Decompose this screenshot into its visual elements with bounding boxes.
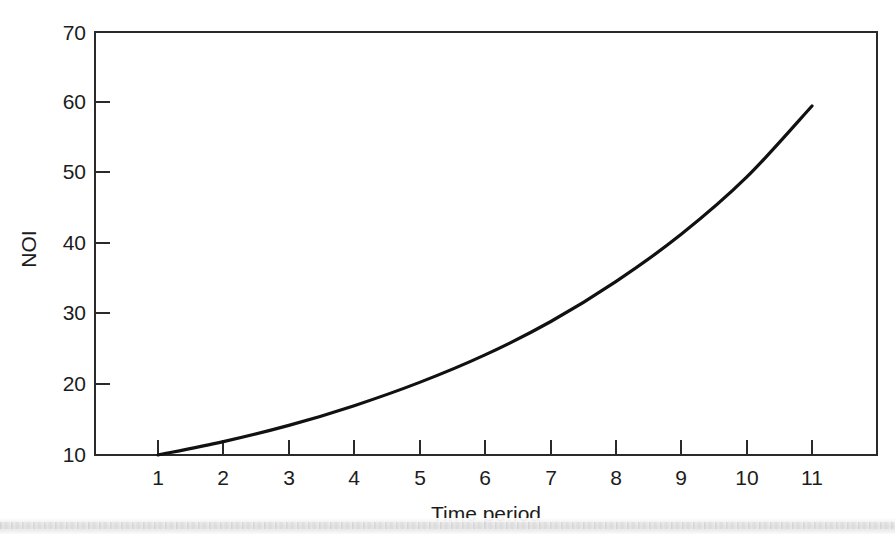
- y-axis-tick-labels: 10 20 30 40 50 60 70: [63, 21, 86, 466]
- noi-data-curve: [158, 106, 812, 455]
- y-tick-label: 40: [63, 231, 86, 254]
- x-tick-label: 4: [348, 466, 360, 489]
- noi-growth-line-chart: 10 20 30 40 50 60 70 1 2 3 4: [0, 0, 895, 534]
- x-tick-label: 6: [479, 466, 491, 489]
- x-tick-label: 8: [610, 466, 622, 489]
- x-axis-ticks: [158, 440, 812, 455]
- y-tick-label: 60: [63, 90, 86, 113]
- scan-edge-noise: [0, 522, 895, 529]
- x-tick-label: 9: [675, 466, 687, 489]
- chart-figure: 10 20 30 40 50 60 70 1 2 3 4: [0, 0, 895, 534]
- x-tick-label: 10: [735, 466, 758, 489]
- y-axis-ticks: [95, 102, 110, 384]
- y-tick-label: 30: [63, 301, 86, 324]
- y-tick-label: 70: [63, 21, 86, 44]
- x-tick-label: 5: [414, 466, 426, 489]
- plot-frame: [95, 32, 877, 455]
- x-axis-tick-labels: 1 2 3 4 5 6 7 8 9 10 11: [152, 466, 823, 489]
- y-tick-label: 50: [63, 160, 86, 183]
- y-tick-label: 10: [63, 443, 86, 466]
- y-axis-title: NOI: [17, 230, 40, 267]
- x-tick-label: 3: [283, 466, 295, 489]
- x-tick-label: 2: [217, 466, 229, 489]
- x-tick-label: 11: [801, 466, 823, 489]
- x-tick-label: 1: [152, 466, 164, 489]
- x-tick-label: 7: [545, 466, 557, 489]
- y-tick-label: 20: [63, 372, 86, 395]
